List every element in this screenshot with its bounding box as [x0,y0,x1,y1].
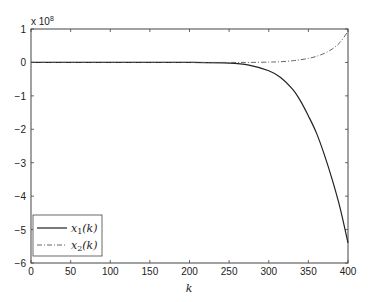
y-tick-label: 1 [20,24,26,35]
legend-label: x2(k) [71,239,98,253]
x-tick-label: 0 [28,266,34,277]
legend: x1(k)x2(k) [33,215,102,256]
x-axis-label: k [186,282,193,295]
y-tick-label: −2 [15,124,27,135]
legend-label: x1(k) [71,222,98,236]
line-chart: 050100150200250300350400 10−1−2−3−4−5−6 … [0,0,369,302]
x-tick-label: 200 [181,266,198,277]
y-tick-label: −3 [15,158,27,169]
y-tick-label: −1 [15,91,27,102]
x-tick-label: 150 [142,266,159,277]
y-tick-label: 0 [20,57,26,68]
x-tick-label: 300 [260,266,277,277]
y-scale-label: x 108 [31,15,54,27]
y-tick-label: −4 [15,191,27,202]
y-tick-label: −5 [15,225,27,236]
y-tick-label: −6 [15,258,27,269]
x-tick-label: 400 [340,266,357,277]
x-tick-label: 350 [300,266,317,277]
x-tick-label: 50 [65,266,77,277]
x-tick-label: 100 [102,266,119,277]
x-tick-label: 250 [221,266,238,277]
